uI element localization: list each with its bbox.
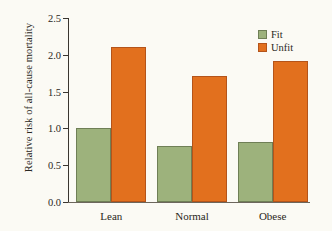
bar-obese-unfit bbox=[273, 61, 308, 202]
bar-obese-fit bbox=[238, 142, 273, 202]
bar-normal-fit bbox=[157, 146, 192, 202]
legend-swatch-unfit bbox=[258, 43, 267, 52]
legend-label-fit: Fit bbox=[271, 29, 283, 40]
y-tick-label: 1.0 bbox=[48, 123, 61, 134]
y-tick-mark bbox=[63, 165, 68, 166]
legend-item-fit: Fit bbox=[258, 28, 293, 40]
y-tick-mark bbox=[63, 18, 68, 19]
legend-item-unfit: Unfit bbox=[258, 41, 293, 53]
y-tick-label: 0.5 bbox=[48, 160, 61, 171]
x-axis-label-normal: Normal bbox=[175, 210, 209, 222]
y-tick-label: 2.0 bbox=[48, 49, 61, 60]
y-axis-title: Relative risk of all-cause mortality bbox=[23, 8, 34, 188]
chart-figure: Relative risk of all-cause mortality 0.0… bbox=[0, 0, 332, 231]
y-tick-mark bbox=[63, 128, 68, 129]
y-tick-mark bbox=[63, 55, 68, 56]
bar-lean-unfit bbox=[111, 47, 146, 202]
y-tick-label: 0.0 bbox=[48, 197, 61, 208]
legend-label-unfit: Unfit bbox=[271, 42, 293, 53]
y-tick-mark bbox=[63, 202, 68, 203]
x-axis-label-lean: Lean bbox=[100, 210, 122, 222]
legend-swatch-fit bbox=[258, 30, 267, 39]
y-tick-mark bbox=[63, 92, 68, 93]
bar-lean-fit bbox=[76, 128, 111, 202]
x-axis-label-obese: Obese bbox=[259, 210, 287, 222]
y-tick-label: 2.5 bbox=[48, 13, 61, 24]
x-axis-line bbox=[68, 202, 310, 203]
chart-legend: FitUnfit bbox=[258, 28, 293, 54]
y-axis-line bbox=[68, 18, 69, 202]
y-tick-label: 1.5 bbox=[48, 86, 61, 97]
bar-normal-unfit bbox=[192, 76, 227, 202]
